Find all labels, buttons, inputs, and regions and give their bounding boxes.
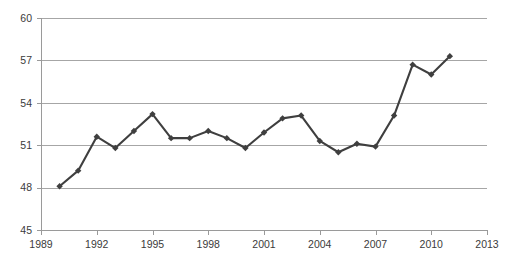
y-tick-label-45: 45 (20, 224, 32, 236)
x-tick-label-2007: 2007 (364, 238, 388, 250)
x-tick-label-1995: 1995 (141, 238, 165, 250)
x-tick-label-1998: 1998 (197, 238, 221, 250)
data-point (354, 141, 360, 147)
y-tick-label-57: 57 (20, 54, 32, 66)
line-chart: 454851545760 198919921995199820012004200… (0, 0, 508, 260)
x-tick-label-1989: 1989 (29, 238, 53, 250)
data-point (186, 135, 192, 141)
chart-canvas: 454851545760 198919921995199820012004200… (0, 0, 508, 260)
y-tick-label-48: 48 (20, 181, 32, 193)
data-point (205, 128, 211, 134)
y-axis-ticks (37, 19, 41, 231)
y-tick-label-51: 51 (20, 139, 32, 151)
x-tick-label-2010: 2010 (420, 238, 444, 250)
x-axis-labels: 198919921995199820012004200720102013 (29, 238, 499, 250)
data-series (56, 53, 453, 189)
y-tick-label-60: 60 (20, 12, 32, 24)
x-tick-label-1992: 1992 (85, 238, 109, 250)
x-tick-label-2004: 2004 (308, 238, 332, 250)
gridlines (41, 19, 487, 231)
y-tick-label-54: 54 (20, 97, 32, 109)
x-tick-label-2013: 2013 (475, 238, 499, 250)
axis-lines (41, 18, 487, 231)
y-axis-labels: 454851545760 (20, 12, 32, 236)
series-line-1 (60, 56, 450, 186)
x-tick-label-2001: 2001 (252, 238, 276, 250)
